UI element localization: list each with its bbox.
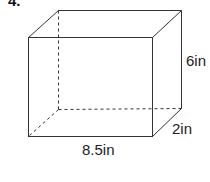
height-label: 6in bbox=[186, 53, 206, 68]
depth-label: 2in bbox=[172, 121, 192, 136]
top-right-edge bbox=[153, 11, 182, 38]
hidden-edges bbox=[29, 11, 182, 137]
front-face bbox=[29, 38, 153, 137]
width-label: 8.5in bbox=[82, 142, 115, 157]
back-edges bbox=[29, 11, 182, 137]
